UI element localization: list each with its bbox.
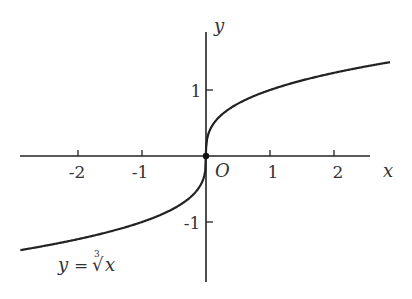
origin-dot [203,153,209,159]
x-tick-label-neg1: -1 [132,162,149,182]
svg-text:x: x [105,254,115,275]
origin-label: O [215,160,230,181]
svg-text:=: = [74,255,88,275]
x-tick-label-2: 2 [333,162,344,182]
cube-root-graph: -2 -1 1 2 1 -1 O x y y = 3 √ x [0,0,412,299]
x-tick-label-neg2: -2 [69,162,86,182]
svg-text:√: √ [92,254,104,275]
svg-text:y: y [57,254,69,275]
x-tick-label-1: 1 [268,162,279,182]
y-tick-label-neg1: -1 [184,213,201,233]
x-axis-label: x [383,160,393,181]
curve-equation-label: y = 3 √ x [57,249,115,275]
y-tick-label-1: 1 [191,81,202,101]
y-axis-label: y [213,15,225,36]
